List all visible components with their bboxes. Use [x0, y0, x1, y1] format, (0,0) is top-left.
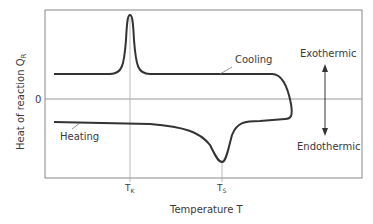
heating-label: Heating: [60, 131, 99, 142]
y-axis-label: Heat of reaction QR: [15, 53, 28, 150]
endothermic-label: Endothermic: [297, 141, 361, 152]
zero-label: 0: [35, 94, 41, 105]
cooling-leader: [220, 67, 232, 74]
arrow-down-icon: [322, 128, 328, 136]
exothermic-label: Exothermic: [300, 48, 356, 59]
plot-frame: [45, 10, 362, 178]
arrow-up-icon: [322, 64, 328, 72]
x-axis-label: Temperature T: [169, 204, 244, 215]
cooling-curve: [54, 15, 292, 119]
tick-tk: TK: [124, 183, 136, 194]
cooling-label: Cooling: [235, 54, 272, 65]
tick-ts: TS: [216, 183, 227, 194]
heating-leader: [72, 123, 80, 129]
dsc-chart: 0 Cooling Heating Exothermic Endothermic…: [0, 0, 373, 224]
